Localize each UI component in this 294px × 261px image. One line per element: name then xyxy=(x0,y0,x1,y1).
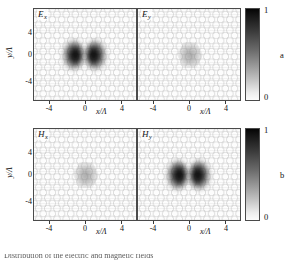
panel-label-Hy: Hy xyxy=(141,129,153,140)
y-tick-neg4-a: -4 xyxy=(20,78,32,86)
field-map-Hx xyxy=(34,129,136,220)
colorbar-b xyxy=(245,128,260,221)
y-tick-4-b: 4 xyxy=(20,149,32,157)
field-map-Ey xyxy=(138,9,240,100)
y-tick-4-a: 4 xyxy=(20,29,32,37)
panel-Hx: Hx xyxy=(33,128,137,221)
x-axis-title-Ey: x/Λ xyxy=(200,107,211,116)
field-distribution-figure: y/Λ 4 0 -4 Ex xyxy=(0,0,294,261)
field-map-Ex xyxy=(34,9,136,100)
x-tick-0-Hy: 0 xyxy=(181,225,197,233)
x-tick-4-Ey: 4 xyxy=(218,105,234,113)
x-tick-4-Hx: 4 xyxy=(114,225,130,233)
figure-row-b: y/Λ 4 0 -4 Hx xyxy=(0,120,294,240)
x-axis-title-Hx: x/Λ xyxy=(96,227,107,236)
y-tick-0-a: 0 xyxy=(20,51,32,59)
x-tick-neg4-Hy: -4 xyxy=(145,225,161,233)
x-tick-0-Ey: 0 xyxy=(181,105,197,113)
x-tick-neg4-Ey: -4 xyxy=(145,105,161,113)
panel-label-Hx: Hx xyxy=(37,129,49,140)
panel-Hy: Hy xyxy=(137,128,241,221)
colorbar-a xyxy=(245,8,260,101)
caption-text: Distribution of the electric and magneti… xyxy=(4,254,153,260)
x-tick-neg4-Hx: -4 xyxy=(41,225,57,233)
x-axis-title-Ex: x/Λ xyxy=(96,107,107,116)
field-lobe-right-Hy xyxy=(190,160,210,190)
x-axis-title-Hy: x/Λ xyxy=(200,227,211,236)
panel-Ex: Ex xyxy=(33,8,137,101)
field-lobe-left-Ex xyxy=(63,40,83,70)
row-letter-a: a xyxy=(280,51,284,60)
panel-label-Ey: Ey xyxy=(141,9,152,20)
caption-strip: Distribution of the electric and magneti… xyxy=(0,254,294,261)
field-lobe-right-Ex xyxy=(86,40,106,70)
panel-Ey: Ey xyxy=(137,8,241,101)
field-map-Hy xyxy=(138,129,240,220)
x-tick-4-Ex: 4 xyxy=(114,105,130,113)
figure-row-a: y/Λ 4 0 -4 Ex xyxy=(0,0,294,120)
field-blob-core-Hx xyxy=(78,167,94,184)
y-tick-neg4-b: -4 xyxy=(20,198,32,206)
x-tick-neg4-Ex: -4 xyxy=(41,105,57,113)
colorbar-min-label-a: 0 xyxy=(264,93,268,102)
colorbar-min-label-b: 0 xyxy=(264,213,268,222)
panel-label-Ex: Ex xyxy=(37,9,48,20)
x-tick-0-Hx: 0 xyxy=(77,225,93,233)
y-axis-title-a: y/Λ xyxy=(5,40,14,66)
field-lobe-left-Hy xyxy=(167,160,187,190)
colorbar-max-label-a: 1 xyxy=(264,6,268,15)
y-tick-0-b: 0 xyxy=(20,171,32,179)
y-axis-title-b: y/Λ xyxy=(5,160,14,186)
row-letter-b: b xyxy=(280,171,284,180)
colorbar-max-label-b: 1 xyxy=(264,126,268,135)
x-tick-0-Ex: 0 xyxy=(77,105,93,113)
field-blob-core-Ey xyxy=(182,47,198,64)
x-tick-4-Hy: 4 xyxy=(218,225,234,233)
